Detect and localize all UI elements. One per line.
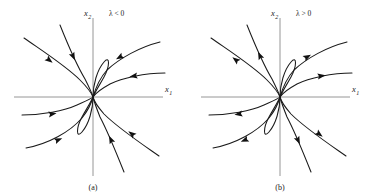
x-axis-label: x1 — [351, 84, 359, 96]
trajectory-curve — [280, 97, 311, 172]
arrowhead-glyph — [231, 55, 241, 65]
panel-caption: (a) — [89, 183, 98, 192]
phase-portrait-figure: x2x1λ < 0(a) x2x1λ > 0(b) — [0, 0, 374, 194]
parameter-label: λ < 0 — [109, 9, 125, 18]
trajectory-curve — [60, 25, 93, 97]
arrowhead-glyph — [294, 136, 303, 146]
trajectory-curve — [22, 97, 93, 115]
arrowhead-glyph — [255, 51, 264, 61]
panel-caption: (b) — [275, 183, 285, 192]
flow-arrow-icon — [231, 55, 241, 65]
y-axis-label-subscript: 2 — [88, 14, 91, 20]
trajectory-curve — [280, 97, 346, 156]
phase-plot-a: x2x1λ < 0(a) — [0, 0, 187, 194]
phase-portrait-panel-a: x2x1λ < 0(a) — [0, 0, 187, 194]
trajectory-curve — [93, 97, 124, 172]
phase-portrait-panel-b: x2x1λ > 0(b) — [187, 0, 374, 194]
flow-arrow-icon — [44, 56, 54, 66]
trajectory-curve — [211, 38, 280, 97]
flow-arrow-icon — [234, 111, 243, 118]
trajectory-curve — [24, 38, 93, 97]
flow-arrow-icon — [106, 135, 115, 145]
trajectory-curve — [93, 97, 159, 156]
parameter-label: λ > 0 — [296, 9, 312, 18]
flow-arrow-icon — [69, 52, 78, 62]
trajectory-curve — [78, 97, 94, 134]
arrowhead-glyph — [234, 111, 243, 118]
phase-plot-b: x2x1λ > 0(b) — [187, 0, 374, 194]
y-axis-label: x2 — [83, 8, 91, 20]
y-axis-label: x2 — [270, 8, 278, 20]
x-axis-label-subscript: 1 — [169, 90, 172, 96]
trajectory-curve — [209, 97, 280, 115]
trajectory-curve — [265, 97, 281, 134]
y-axis-label-subscript: 2 — [275, 14, 278, 20]
x-axis-label-subscript: 1 — [356, 90, 359, 96]
flow-arrow-icon — [294, 136, 303, 146]
trajectory-curve — [247, 25, 280, 97]
arrowhead-glyph — [69, 52, 78, 62]
arrowhead-glyph — [106, 135, 115, 145]
arrowhead-glyph — [44, 56, 54, 66]
flow-arrow-icon — [255, 51, 264, 61]
x-axis-label: x1 — [164, 84, 172, 96]
